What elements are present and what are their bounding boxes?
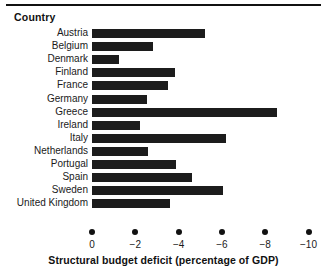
x-axis-tick-dot [306, 229, 312, 235]
bar-row: France [0, 80, 327, 93]
bar [92, 173, 192, 182]
bar-row: Portugal [0, 159, 327, 172]
header-rule [6, 4, 321, 6]
bar [92, 29, 205, 38]
bar-row: Sweden [0, 185, 327, 198]
bar [92, 186, 223, 195]
chart-figure: Country AustriaBelgiumDenmarkFinlandFran… [0, 0, 327, 269]
bar-row: United Kingdom [0, 198, 327, 211]
bar-category-label: Italy [0, 132, 88, 143]
bar-category-label: Belgium [0, 40, 88, 51]
x-axis-tick-label: −2 [115, 239, 155, 250]
bar [92, 121, 140, 130]
bar-category-label: France [0, 79, 88, 90]
bar [92, 55, 119, 64]
bar-category-label: Ireland [0, 119, 88, 130]
bar [92, 68, 175, 77]
bar-category-label: Finland [0, 66, 88, 77]
bar [92, 108, 277, 117]
bar-category-label: Austria [0, 27, 88, 38]
bar-category-label: United Kingdom [0, 197, 88, 208]
x-axis-tick-dot [132, 229, 138, 235]
bar [92, 81, 168, 90]
y-axis-heading: Country [14, 11, 56, 23]
x-axis-tick-label: −10 [289, 239, 327, 250]
bar-row: Netherlands [0, 146, 327, 159]
x-axis-tick-dot [262, 229, 268, 235]
bar [92, 160, 176, 169]
bar-row: Spain [0, 172, 327, 185]
x-axis-tick-dot [219, 229, 225, 235]
bar-row: Belgium [0, 41, 327, 54]
plot-area: AustriaBelgiumDenmarkFinlandFranceGerman… [0, 28, 327, 224]
bar-category-label: Denmark [0, 53, 88, 64]
bar-row: Greece [0, 107, 327, 120]
x-axis-tick-label: −4 [159, 239, 199, 250]
bar [92, 95, 147, 104]
bar-row: Finland [0, 67, 327, 80]
bar-category-label: Germany [0, 93, 88, 104]
bar-category-label: Portugal [0, 158, 88, 169]
bar [92, 147, 148, 156]
bar-row: Austria [0, 28, 327, 41]
bar-row: Germany [0, 94, 327, 107]
bar [92, 134, 226, 143]
x-axis-tick-label: −8 [245, 239, 285, 250]
x-axis-tick-label: −6 [202, 239, 242, 250]
bar-row: Italy [0, 133, 327, 146]
bar-row: Ireland [0, 120, 327, 133]
x-axis-tick-dot [176, 229, 182, 235]
x-axis-tick-label: 0 [72, 239, 112, 250]
bar [92, 42, 153, 51]
x-axis-title: Structural budget deficit (percentage of… [0, 254, 327, 266]
bar-category-label: Greece [0, 106, 88, 117]
bar-category-label: Spain [0, 171, 88, 182]
x-axis: Structural budget deficit (percentage of… [0, 224, 327, 269]
x-axis-tick-dot [89, 229, 95, 235]
bar-category-label: Netherlands [0, 145, 88, 156]
bar-category-label: Sweden [0, 184, 88, 195]
bar-row: Denmark [0, 54, 327, 67]
bar [92, 199, 170, 208]
